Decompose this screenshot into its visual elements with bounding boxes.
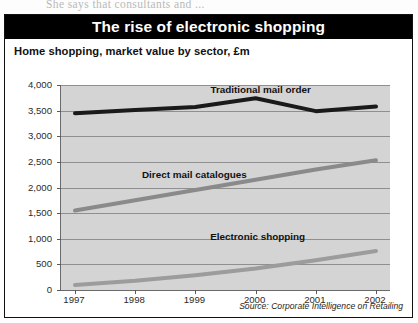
- y-axis-labels: 05001,0001,5002,0002,5003,0003,5004,000: [5, 85, 56, 290]
- y-tick-label: 500: [36, 258, 52, 269]
- y-tick-label: 1,000: [28, 233, 52, 244]
- article-bleed-text: She says that consultants and ...: [46, 0, 386, 12]
- plot-area: [60, 85, 390, 291]
- figure-page: She says that consultants and ... The ri…: [0, 0, 418, 323]
- x-tick-label: 1999: [184, 294, 205, 305]
- x-tick-label: 1998: [124, 294, 145, 305]
- y-tick-label: 3,000: [28, 130, 52, 141]
- y-tick-label: 4,000: [28, 79, 52, 90]
- y-tick-label: 2,000: [28, 182, 52, 193]
- series-label: Traditional mail order: [210, 84, 310, 95]
- series-line: [75, 98, 376, 113]
- y-tick-label: 2,500: [28, 156, 52, 167]
- source-note: Source: Corporate Intelligence on Retail…: [239, 301, 403, 311]
- series-label: Electronic shopping: [210, 231, 305, 242]
- chart-subtitle: Home shopping, market value by sector, £…: [14, 45, 250, 57]
- series-label: Direct mail catalogues: [142, 169, 247, 180]
- series-line: [75, 160, 376, 210]
- y-tick-mark: [57, 290, 61, 291]
- y-tick-label: 0: [47, 284, 52, 295]
- x-tick-label: 1997: [63, 294, 84, 305]
- chart-figure: The rise of electronic shopping Home sho…: [4, 14, 413, 318]
- series-lines: [61, 85, 390, 290]
- series-line: [75, 251, 376, 285]
- y-tick-label: 3,500: [28, 105, 52, 116]
- y-tick-label: 1,500: [28, 207, 52, 218]
- chart-title: The rise of electronic shopping: [5, 15, 412, 39]
